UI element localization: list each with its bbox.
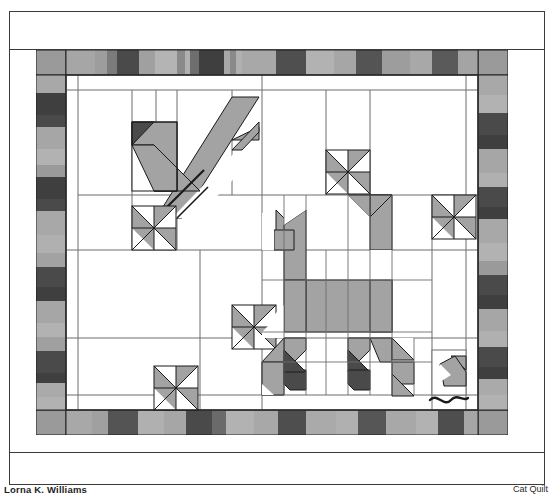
pinwheel-block-3: [432, 195, 476, 239]
pinwheel-block-2: [326, 150, 370, 194]
border-left: [36, 75, 66, 410]
patent-drawing-sheet: Lorna K. Williams Cat Quilt: [0, 0, 554, 495]
caption-author: Lorna K. Williams: [4, 484, 87, 495]
quilt-svg: [36, 50, 508, 435]
sheet-caption: Lorna K. Williams Cat Quilt: [0, 484, 554, 495]
pinwheel-block-1: [132, 206, 176, 250]
sheet-header-band: [9, 11, 545, 50]
pinwheel-block-5: [154, 366, 198, 410]
border-bottom: [66, 410, 478, 435]
quilt-drawing: [36, 50, 508, 435]
border-top: [66, 50, 478, 75]
border-right: [478, 75, 508, 410]
caption-title: Cat Quilt: [513, 484, 548, 494]
sheet-footer-band: [9, 452, 545, 485]
mouse-block: [430, 350, 468, 402]
